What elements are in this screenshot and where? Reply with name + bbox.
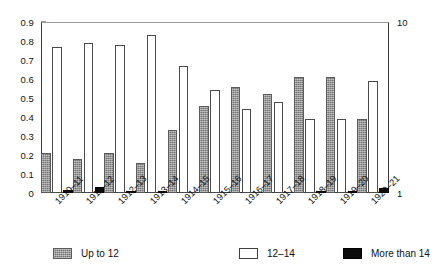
y-axis-tick-label-left: 0.9 — [20, 17, 34, 28]
bar-1910-11-up-to-12 — [41, 153, 51, 193]
bar-chart: 00.10.20.30.40.50.60.70.80.9 110 1910–11… — [0, 0, 435, 268]
bar-1920-21-12-14 — [368, 81, 378, 193]
legend-item-label: Up to 12 — [81, 248, 119, 259]
y-axis-tick-label-left: 0.2 — [20, 150, 34, 161]
y-axis-tick-label-right: 1 — [397, 188, 402, 199]
bar-1919-20-12-14 — [337, 119, 347, 193]
y-axis-right: 110 — [389, 22, 435, 193]
bar-1913-14-12-14 — [147, 35, 157, 193]
bar-1911-12-12-14 — [84, 43, 94, 193]
gray-swatch-icon — [53, 248, 72, 259]
y-axis-tick-label-left: 0.7 — [20, 55, 34, 66]
y-axis-tick-label-left: 0.1 — [20, 169, 34, 180]
y-axis-tick-label-right: 10 — [397, 17, 408, 28]
chart-legend: Up to 1212–14More than 14 — [41, 245, 411, 265]
y-axis-left: 00.10.20.30.40.50.60.70.80.9 — [0, 22, 41, 193]
y-axis-tick-label-left: 0 — [29, 188, 34, 199]
y-axis-tick-label-left: 0.4 — [20, 112, 34, 123]
bar-1918-19-12-14 — [305, 119, 315, 193]
y-axis-tick-label-left: 0.3 — [20, 131, 34, 142]
bar-1915-16-12-14 — [210, 90, 220, 193]
bar-1910-11-12-14 — [52, 47, 62, 193]
y-axis-tick-label-left: 0.5 — [20, 93, 34, 104]
legend-item[interactable]: Up to 12 — [53, 245, 119, 261]
legend-item[interactable]: 12–14 — [239, 245, 295, 261]
y-axis-tick-label-left: 0.8 — [20, 36, 34, 47]
legend-item-label: More than 14 — [371, 248, 430, 259]
legend-item[interactable]: More than 14 — [343, 245, 430, 261]
legend-item-label: 12–14 — [267, 248, 295, 259]
bars-layer — [41, 22, 389, 193]
y-axis-tick-label-left: 0.6 — [20, 74, 34, 85]
bar-1912-13-12-14 — [115, 45, 125, 193]
white-swatch-icon — [239, 248, 258, 259]
black-swatch-icon — [343, 248, 362, 259]
x-axis-labels: 1910–111911–121912–131913–141914–151915–… — [41, 193, 389, 243]
bar-1914-15-12-14 — [179, 66, 189, 193]
